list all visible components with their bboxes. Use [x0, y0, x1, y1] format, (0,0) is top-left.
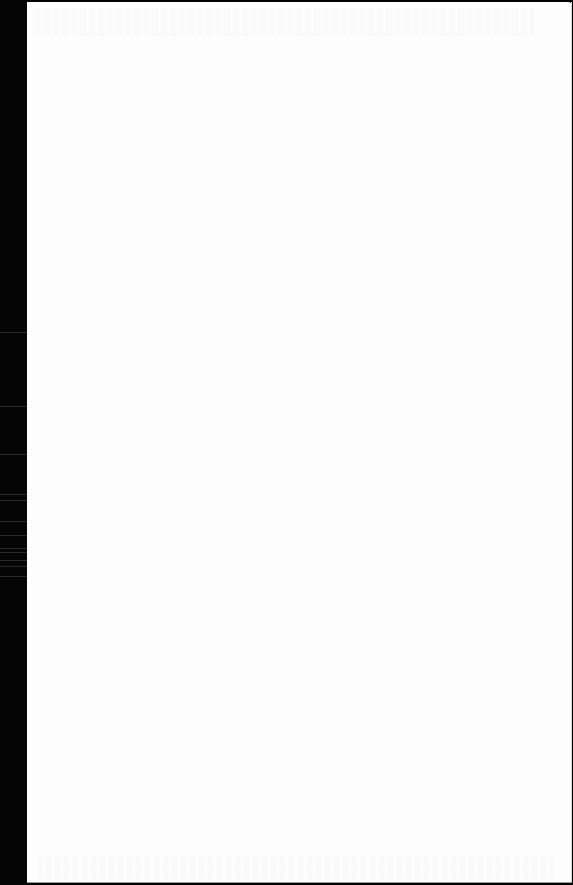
bleed-through-text-top: [35, 8, 535, 36]
scan-streak: [0, 552, 27, 553]
page-bottom-edge: [27, 882, 572, 883]
scan-streak: [0, 535, 27, 536]
scan-streak: [0, 560, 27, 561]
scan-streak: [0, 521, 27, 522]
scan-streak: [0, 454, 27, 455]
scan-streak: [0, 406, 27, 407]
scan-left-border: [0, 0, 27, 885]
bleed-through-text-bottom: [37, 857, 557, 879]
scan-streak: [0, 548, 27, 549]
scan-streak: [0, 576, 27, 577]
scan-streak: [0, 566, 27, 567]
scan-streak: [0, 494, 27, 495]
scan-streak: [0, 332, 27, 333]
blank-page: [27, 2, 572, 883]
page-right-edge: [571, 2, 572, 883]
scanned-page-image: [0, 0, 573, 885]
scan-streak: [0, 500, 27, 501]
